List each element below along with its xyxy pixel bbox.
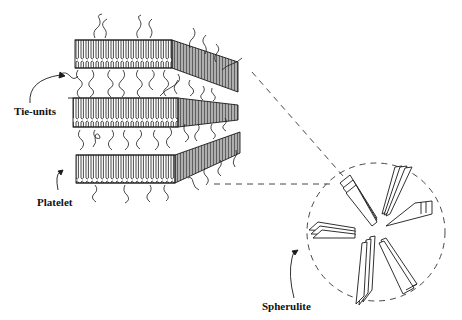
- platelet-pointer: [57, 172, 60, 190]
- arrowhead-icon: [58, 170, 63, 175]
- arm-left: [309, 222, 355, 238]
- arm-bottom-left: [356, 236, 375, 305]
- spherulite-pointer: [290, 251, 295, 298]
- polymer-morphology-diagram: [0, 0, 462, 320]
- spherulite-lamellae: [309, 166, 432, 305]
- platelet-label: Platelet: [37, 196, 72, 208]
- bottom-platelet: [76, 132, 240, 183]
- middle-platelet: [68, 98, 238, 127]
- spherulite-label: Spherulite: [262, 300, 311, 312]
- tie-units-pointer: [30, 75, 60, 103]
- arm-bottom-right: [379, 238, 417, 294]
- platelets: [68, 40, 240, 183]
- arm-upper-left: [340, 175, 377, 226]
- tie-units-label: Tie-units: [14, 105, 56, 117]
- top-platelet: [75, 40, 238, 92]
